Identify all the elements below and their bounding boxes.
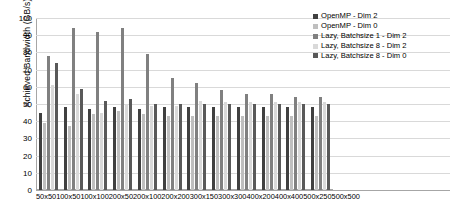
bar [167,116,170,190]
x-tick-label: 200x100 [133,192,161,201]
legend-label: OpenMP - Dim 2 [321,12,377,21]
bar [138,109,141,190]
bar [72,28,75,190]
y-tick-label-20: 20 [4,151,32,160]
y-tick-label-70: 70 [4,65,32,74]
bar [302,104,305,190]
bar [286,107,289,190]
bar [39,113,42,190]
bar [163,107,166,190]
legend-swatch-icon [313,24,318,29]
bar [104,101,107,190]
x-tick-label: 100x50 [56,192,80,201]
bar [150,106,153,190]
bar [270,94,273,190]
legend-item[interactable]: OpenMP - Dim 2 [313,12,407,21]
y-tick-label-40: 40 [4,117,32,126]
bar [290,116,293,190]
bar [220,90,223,190]
bar [55,63,58,190]
y-tick-label-30: 30 [4,134,32,143]
bar [175,106,178,190]
bar [47,56,50,190]
bar [51,85,54,190]
legend-item[interactable]: OpenMP - Dim 0 [313,22,407,31]
bar [245,94,248,190]
legend-swatch-icon [313,34,318,39]
bar [237,107,240,190]
x-tick-label: 500x250 [303,192,331,201]
bar [88,109,91,190]
legend-item[interactable]: Lazy, Batchsize 8 - Dim 2 [313,42,407,51]
bar [179,104,182,190]
bar-chart: Achieved Bandwidth (GB/s) 01020304050607… [0,0,450,218]
bar-group [234,18,259,190]
bar [212,107,215,190]
bar [241,116,244,190]
bar [298,102,301,190]
x-tick-label: 50x50 [36,192,56,201]
bar-group [86,18,111,190]
legend-swatch-icon [313,53,318,58]
y-tick-label-80: 80 [4,48,32,57]
y-tick-label-60: 60 [4,82,32,91]
bar [253,104,256,190]
bar [266,116,269,190]
bar [121,28,124,190]
x-tick-label: 500x500 [332,192,360,201]
legend-item[interactable]: Lazy, Batchsize 8 - Dim 0 [313,52,407,61]
bar [199,101,202,190]
y-tick-label-90: 90 [4,31,32,40]
bar [294,97,297,190]
bar-group [36,18,61,190]
legend-swatch-icon [313,14,318,19]
x-axis-labels: 50x50100x50100x100200x50200x100200x20030… [36,192,333,201]
bar [203,104,206,190]
bar-group [209,18,234,190]
legend: OpenMP - Dim 2OpenMP - Dim 0Lazy, Batchs… [313,12,407,60]
x-tick-label: 400x200 [246,192,274,201]
plot-area [36,18,333,190]
bar [249,102,252,190]
bar-groups [36,18,333,190]
bar-group [110,18,135,190]
x-tick-label: 400x400 [275,192,303,201]
bar [68,126,71,190]
x-tick-label: 100x100 [80,192,108,201]
y-tick-label-0: 0 [4,186,32,195]
legend-item[interactable]: Lazy, Batchsize 1 - Dim 2 [313,32,407,41]
bar [142,114,145,190]
bar [191,116,194,190]
bar [311,107,314,190]
bar [319,97,322,190]
bar [195,83,198,190]
legend-label: OpenMP - Dim 0 [321,22,377,31]
bar [76,94,79,190]
bar [64,107,67,190]
x-tick-label: 200x200 [161,192,189,201]
bar-group [160,18,185,190]
x-tick-label: 200x50 [109,192,133,201]
bar [100,113,103,190]
bar [274,102,277,190]
legend-label: Lazy, Batchsize 8 - Dim 0 [321,52,407,61]
legend-label: Lazy, Batchsize 8 - Dim 2 [321,42,407,51]
bar [216,116,219,190]
bar [278,104,281,190]
bar-group [135,18,160,190]
bar [129,99,132,190]
bar [327,104,330,190]
bar-group [259,18,284,190]
bar-group [284,18,309,190]
y-tick-label-100: 100 [4,14,32,23]
bar-group [185,18,210,190]
bar [96,32,99,190]
bar [113,107,116,190]
bar [187,107,190,190]
bar [154,104,157,190]
legend-swatch-icon [313,44,318,49]
bar [315,116,318,190]
x-tick-label: 300x150 [190,192,218,201]
legend-label: Lazy, Batchsize 1 - Dim 2 [321,32,407,41]
bar [92,114,95,190]
